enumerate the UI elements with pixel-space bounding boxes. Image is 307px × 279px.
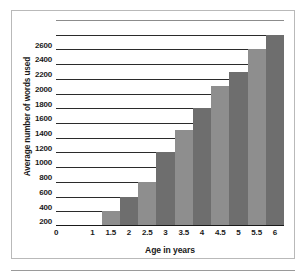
bar — [138, 182, 156, 226]
x-axis-tick-label: 2.5 — [142, 228, 153, 237]
bar — [102, 211, 120, 226]
y-axis-tick-label: 2000 — [0, 85, 52, 94]
x-axis-tick-label: 2 — [127, 228, 131, 237]
x-axis-tick-label: 1.5 — [105, 228, 116, 237]
x-axis-tick-label: 4 — [200, 228, 204, 237]
bar — [120, 197, 138, 226]
y-axis-tick-label: 1200 — [0, 144, 52, 153]
y-axis-tick-label: 1600 — [0, 114, 52, 123]
bar-series — [56, 20, 284, 226]
x-axis-tick-label: 1 — [90, 228, 94, 237]
y-axis-tick-label: 2200 — [0, 70, 52, 79]
bar — [175, 130, 193, 226]
plot-area — [56, 20, 284, 226]
bar — [266, 35, 284, 226]
y-axis-tick-label: 2600 — [0, 41, 52, 50]
y-axis-tick-label: 600 — [0, 188, 52, 197]
x-axis-tick-label: 6 — [273, 228, 277, 237]
x-axis-line — [56, 225, 284, 226]
bar — [156, 152, 174, 226]
bar — [229, 72, 247, 227]
y-axis-tick-label: 200 — [0, 217, 52, 226]
x-axis-tick-label: 5 — [236, 228, 240, 237]
x-axis-tick-label: 0 — [54, 228, 58, 237]
y-axis-tick-label: 1800 — [0, 100, 52, 109]
bar — [193, 108, 211, 226]
y-axis-tick-label: 1400 — [0, 129, 52, 138]
bar — [248, 49, 266, 226]
x-axis-title: Age in years — [56, 245, 284, 255]
bar — [211, 86, 229, 226]
x-axis-tick-label: 3 — [163, 228, 167, 237]
y-axis-tick-label: 1000 — [0, 158, 52, 167]
y-axis-tick-label: 2400 — [0, 55, 52, 64]
y-axis-tick-label: 400 — [0, 203, 52, 212]
figure: Average number of words used 20040060080… — [0, 0, 307, 279]
y-axis-tick-label: 800 — [0, 173, 52, 182]
x-axis-tick-label: 5.5 — [251, 228, 262, 237]
bottom-rule — [11, 270, 295, 271]
x-axis-tick-label: 4.5 — [215, 228, 226, 237]
x-axis-tick-labels: 011.522.533.544.555.56 — [56, 228, 284, 242]
x-axis-tick-label: 3.5 — [178, 228, 189, 237]
